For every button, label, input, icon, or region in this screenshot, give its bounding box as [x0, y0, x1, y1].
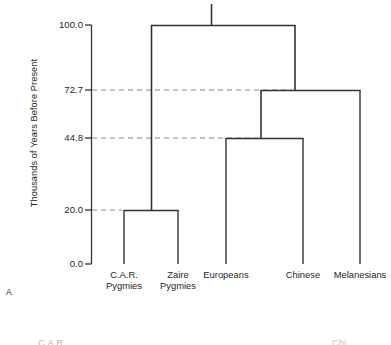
- y-tick-label-44-8: 44.8: [39, 132, 83, 143]
- leaf-label-melanesians: Melanesians: [322, 270, 391, 281]
- leaf-label-car-pygmies-line1: C.A.R.: [110, 269, 138, 280]
- next-panel-text-fragment-right: Chi: [332, 337, 346, 345]
- leaf-label-zaire-pygmies-line1: Zaire: [167, 269, 188, 280]
- dendrogram-figure: Thousands of Years Before Present 100.0 …: [0, 0, 391, 345]
- leaf-label-europeans: Europeans: [191, 270, 261, 281]
- leaf-label-melanesians-line1: Melanesians: [334, 269, 387, 280]
- y-tick-label-72-7: 72.7: [39, 84, 83, 95]
- y-tick-label-100: 100.0: [39, 19, 83, 30]
- y-tick-label-20: 20.0: [39, 204, 83, 215]
- leaf-label-car-pygmies: C.A.R. Pygmies: [94, 270, 154, 291]
- dendrogram-plot: [0, 0, 391, 345]
- y-tick-label-0: 0.0: [39, 258, 83, 269]
- panel-letter-a: A: [6, 287, 12, 297]
- leaf-label-zaire-pygmies-line2: Pygmies: [148, 281, 208, 292]
- next-panel-text-fragment-left: C.A.R.: [38, 337, 66, 345]
- leaf-label-chinese-line1: Chinese: [286, 269, 320, 280]
- leaf-label-car-pygmies-line2: Pygmies: [94, 281, 154, 292]
- y-axis-title: Thousands of Years Before Present: [29, 38, 39, 228]
- leaf-label-europeans-line1: Europeans: [203, 269, 248, 280]
